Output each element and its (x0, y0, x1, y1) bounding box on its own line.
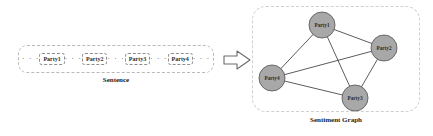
right-arrow-shape (224, 51, 250, 69)
graph-node-label-party4: Party4 (265, 75, 280, 81)
graph-node-party4[interactable]: Party4 (259, 65, 285, 91)
sentence-panel: · · · Party1 · · · Party2 · · · Party3 ·… (18, 45, 214, 73)
sentiment-graph: Party1Party2Party3Party4 (252, 6, 420, 112)
ellipsis-leading: · · · (22, 55, 39, 63)
graph-node-label-party3: Party3 (348, 95, 363, 101)
ellipsis-separator-2: · · · (107, 55, 124, 63)
ellipsis-separator-1: · · · (65, 55, 82, 63)
figure-root: · · · Party1 · · · Party2 · · · Party3 ·… (0, 0, 433, 136)
token-party2: Party2 (82, 53, 107, 65)
ellipsis-trailing: · · · (193, 55, 210, 63)
graph-edge-party2-party4 (272, 48, 384, 78)
graph-node-party2[interactable]: Party2 (371, 35, 397, 61)
sentence-caption: Sentence (18, 76, 214, 84)
graph-node-party1[interactable]: Party1 (309, 12, 335, 38)
right-arrow-icon (222, 49, 252, 71)
token-party1: Party1 (39, 53, 64, 65)
graph-caption: Sentiment Graph (252, 116, 420, 124)
graph-node-label-party1: Party1 (315, 22, 330, 28)
token-party3: Party3 (125, 53, 150, 65)
token-party4: Party4 (168, 53, 193, 65)
graph-node-label-party2: Party2 (377, 45, 392, 51)
graph-node-party3[interactable]: Party3 (342, 85, 368, 111)
ellipsis-separator-3: · · · (150, 55, 167, 63)
